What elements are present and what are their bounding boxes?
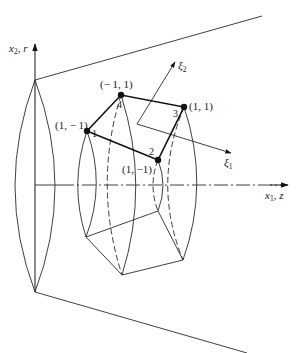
origin-lens-right-arc <box>35 80 55 292</box>
horizontal-axis-label: x1, z <box>264 189 284 203</box>
diagram-canvas: 1 2 3 4 (1, − 1) (1, −1) (1, 1) (− 1, 1)… <box>0 0 300 353</box>
node1-lens-left-arc <box>78 131 87 237</box>
xi2-label: ξ2 <box>178 59 187 74</box>
node2-hidden-arc <box>153 160 158 211</box>
node3-hidden-arc <box>168 107 184 260</box>
xi2-axis <box>137 62 175 124</box>
node-1-number: 1 <box>92 128 97 139</box>
lower-cone-line <box>35 292 247 353</box>
node3-visible-arc <box>183 107 197 260</box>
node-2-number: 2 <box>149 146 154 157</box>
element-quadrilateral <box>87 95 184 160</box>
origin-lens-left-arc <box>15 80 35 292</box>
node-2-dot <box>155 157 161 163</box>
node-3-dot <box>181 104 187 110</box>
lower-quadrilateral <box>86 211 183 275</box>
node-1-coord-label: (1, − 1) <box>55 119 88 132</box>
node-2-coord-label: (1, −1) <box>122 163 152 176</box>
node-4-coord-label: (− 1, 1) <box>100 78 133 91</box>
axisymmetric-element-diagram: 1 2 3 4 (1, − 1) (1, −1) (1, 1) (− 1, 1)… <box>0 0 300 353</box>
node2-visible-arc <box>158 160 163 211</box>
node-3-coord-label: (1, 1) <box>189 100 213 113</box>
node-4-dot <box>118 92 124 98</box>
xi1-label: ξ1 <box>224 156 233 171</box>
node-3-number: 3 <box>173 108 178 119</box>
vertical-axis-label: x2, r <box>8 42 28 56</box>
node1-lens-right-arc <box>86 131 96 237</box>
node-4-number: 4 <box>117 99 122 110</box>
upper-cone-line <box>35 16 262 80</box>
